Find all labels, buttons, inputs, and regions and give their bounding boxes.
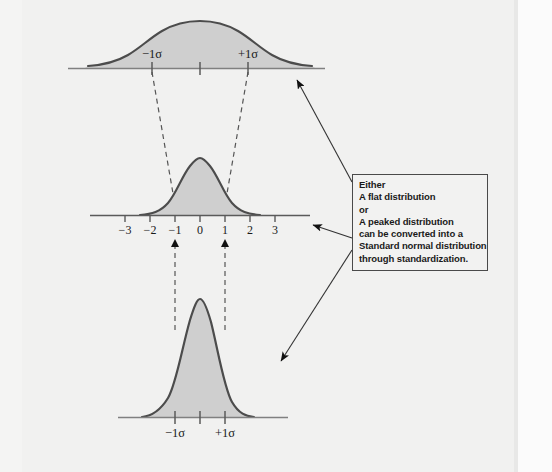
standard-normal-tick-label-2: 2 bbox=[247, 223, 253, 237]
peaked-distribution-curve-fill bbox=[142, 299, 254, 417]
standard-normal-tick-label-1: 1 bbox=[222, 223, 228, 237]
callout-line-6: Standard normal distribution bbox=[359, 240, 482, 252]
callout-line-3: or bbox=[359, 204, 482, 216]
callout-line-4: A peaked distribution bbox=[359, 216, 482, 228]
callout-line-2: A flat distribution bbox=[359, 191, 482, 203]
callout-line-5: can be converted into a bbox=[359, 228, 482, 240]
flat-label-plus-1-sigma: +1σ bbox=[238, 47, 258, 61]
dashed-connector-top-right bbox=[225, 72, 248, 205]
standard-normal-tick-label-3: 3 bbox=[272, 223, 278, 237]
standard-normal-tick-label-minus-1: −1 bbox=[169, 223, 182, 237]
dashed-connector-top-left bbox=[152, 72, 175, 205]
figure-page: −1σ +1σ −3 −2 −1 0 1 2 bbox=[0, 0, 552, 472]
flat-label-minus-1-sigma: −1σ bbox=[142, 47, 162, 61]
standard-normal-curve-fill bbox=[140, 158, 260, 215]
standard-normal-tick-label-minus-3: −3 bbox=[119, 223, 132, 237]
callout-line-1: Either bbox=[359, 179, 482, 191]
peaked-label-plus-1-sigma: +1σ bbox=[215, 426, 235, 440]
standard-normal-tick-label-minus-2: −2 bbox=[144, 223, 157, 237]
flat-distribution-panel: −1σ +1σ bbox=[68, 21, 325, 75]
callout-arrow-to-peaked-distribution bbox=[281, 250, 352, 361]
peaked-label-minus-1-sigma: −1σ bbox=[165, 426, 185, 440]
flat-distribution-curve-fill bbox=[85, 21, 315, 68]
peaked-distribution-panel: −1σ +1σ bbox=[118, 299, 288, 440]
callout-arrow-to-flat-distribution bbox=[297, 80, 352, 182]
callout-textbox: Either A flat distribution or A peaked d… bbox=[352, 174, 488, 271]
standard-normal-panel: −3 −2 −1 0 1 2 3 bbox=[90, 158, 310, 237]
standard-normal-tick-label-0: 0 bbox=[197, 223, 203, 237]
callout-line-7: through standardization. bbox=[359, 253, 482, 265]
callout-arrow-to-standard-normal bbox=[313, 225, 352, 238]
